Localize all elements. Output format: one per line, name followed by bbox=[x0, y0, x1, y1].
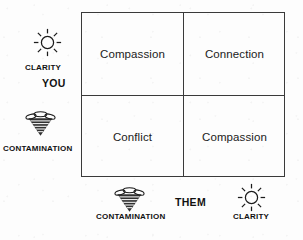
axis-label-you-clarity: CLARITY bbox=[25, 63, 61, 72]
axis-label-them-clarity: CLARITY bbox=[233, 212, 269, 221]
tornado-icon bbox=[113, 184, 146, 214]
matrix-box: Compassion Connection Conflict Compassio… bbox=[81, 12, 285, 177]
axis-title-you: YOU bbox=[42, 77, 66, 89]
quadrant-top-right: Connection bbox=[184, 13, 285, 95]
tornado-icon bbox=[24, 108, 57, 138]
quadrant-diagram-page: CLARITY YOU CONTAMINATION Compassion Con… bbox=[0, 0, 303, 240]
sun-icon bbox=[237, 183, 266, 212]
quadrant-top-left: Compassion bbox=[82, 13, 183, 95]
sun-icon bbox=[33, 28, 62, 57]
quadrant-bottom-left: Conflict bbox=[82, 96, 183, 178]
axis-label-them-contamination: CONTAMINATION bbox=[96, 212, 165, 221]
axis-title-them: THEM bbox=[175, 196, 206, 208]
quadrant-bottom-right: Compassion bbox=[184, 96, 285, 178]
axis-label-you-contamination: CONTAMINATION bbox=[3, 144, 72, 153]
